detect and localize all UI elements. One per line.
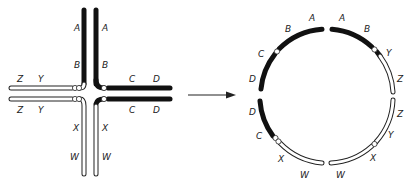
label-Y: Y	[38, 74, 45, 84]
label-D: D	[153, 74, 160, 84]
label-Z: Z	[16, 105, 24, 115]
label-C: C	[129, 74, 136, 84]
centromere	[372, 47, 377, 52]
label-A: A	[101, 23, 108, 33]
label-A: A	[73, 23, 80, 33]
translocation-diagram: A B A B C D C D Z Y Z Y X W X W	[0, 0, 412, 184]
label-Y: Y	[388, 130, 395, 140]
label-B: B	[74, 60, 80, 70]
centromere	[101, 96, 106, 101]
label-B: B	[364, 24, 370, 34]
label-X: X	[101, 123, 109, 133]
label-Y: Y	[386, 48, 393, 58]
label-C: C	[258, 49, 265, 59]
label-Z: Z	[396, 109, 404, 119]
centromere	[76, 96, 81, 101]
label-D: D	[249, 74, 256, 84]
label-W: W	[300, 170, 310, 180]
label-C: C	[256, 131, 263, 141]
centromere	[76, 85, 81, 90]
centromere	[276, 139, 281, 144]
label-X: X	[72, 123, 80, 133]
label-W: W	[70, 152, 80, 162]
label-Y: Y	[38, 105, 45, 115]
centromere	[274, 49, 279, 54]
ring-configuration: A B Y Z Z Y X W W X C D D C B A	[249, 13, 404, 180]
label-X: X	[277, 154, 285, 164]
label-C: C	[129, 105, 136, 115]
label-A: A	[308, 13, 315, 23]
label-B: B	[285, 24, 291, 34]
label-D: D	[153, 105, 160, 115]
label-W: W	[102, 152, 112, 162]
cross-configuration: A B A B C D C D Z Y Z Y X W X W	[11, 10, 170, 174]
label-X: X	[369, 153, 377, 163]
arrow-icon	[188, 92, 236, 99]
centromere	[372, 141, 377, 146]
label-D: D	[249, 107, 256, 117]
centromere	[101, 85, 106, 90]
label-W: W	[336, 170, 346, 180]
label-A: A	[338, 13, 345, 23]
label-B: B	[102, 60, 108, 70]
label-Z: Z	[16, 74, 24, 84]
label-Z: Z	[396, 74, 404, 84]
